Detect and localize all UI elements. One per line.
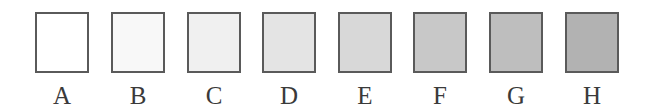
swatch-label-f: F [413,81,467,107]
swatch-b [111,12,165,73]
swatch-group-a: A [35,12,89,73]
swatch-group-e: E [338,12,392,73]
swatch-h [565,12,619,73]
swatch-g [489,12,543,73]
swatch-group-c: C [187,12,241,73]
swatch-a [35,12,89,73]
swatch-group-b: B [111,12,165,73]
swatch-label-c: C [187,81,241,107]
swatch-e [338,12,392,73]
swatch-label-h: H [565,81,619,107]
swatch-group-g: G [489,12,543,73]
swatch-label-e: E [338,81,392,107]
swatch-f [413,12,467,73]
swatch-label-g: G [489,81,543,107]
swatch-label-d: D [262,81,316,107]
swatch-c [187,12,241,73]
swatch-label-b: B [111,81,165,107]
swatch-group-d: D [262,12,316,73]
swatch-group-f: F [413,12,467,73]
swatch-group-h: H [565,12,619,73]
swatch-label-a: A [35,81,89,107]
swatch-d [262,12,316,73]
